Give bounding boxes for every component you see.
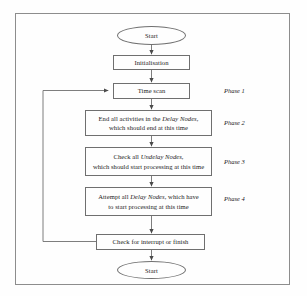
node-start-top[interactable]: Start [117,26,186,45]
node-initialisation-label: Initialisation [132,58,170,67]
phase-label-1: Phase 1 [224,87,245,94]
phase4-line1-post: , which have [165,193,199,200]
phase2-line1-post: , [197,115,199,122]
node-phase2-box[interactable]: End all activities in the Delay Nodes, w… [85,110,212,136]
node-phase2-box-text: End all activities in the Delay Nodes, w… [97,114,201,133]
node-time-scan[interactable]: Time scan [113,83,190,99]
node-start-bottom[interactable]: Start [117,261,186,279]
phase2-line1-pre: End all activities in the [99,115,163,122]
phase4-line1-em: Delay Nodes [130,193,164,200]
flowchart-figure: Start Initialisation Time scan End all a… [0,0,307,296]
phase3-line1-post: , [182,153,184,160]
phase4-line2: to start processing at this time [108,203,189,210]
node-phase4-box[interactable]: Attempt all Delay Nodes, which have to s… [85,187,212,216]
node-phase3-box-text: Check all Undelay Nodes, which should st… [91,152,206,171]
node-check-interrupt-label: Check for interrupt or finish [111,237,191,246]
node-check-interrupt[interactable]: Check for interrupt or finish [96,234,205,250]
phase3-line2: which should start processing at this ti… [93,163,204,170]
node-phase4-box-text: Attempt all Delay Nodes, which have to s… [96,192,201,211]
phase3-line1-pre: Check all [113,153,140,160]
node-phase3-box[interactable]: Check all Undelay Nodes, which should st… [85,147,212,176]
node-start-top-label: Start [143,32,160,39]
phase-label-3: Phase 3 [224,158,245,165]
phase4-line1-pre: Attempt all [98,193,130,200]
phase3-line1-em: Undelay Nodes [141,153,182,160]
phase-label-4: Phase 4 [224,195,245,202]
node-start-bottom-label: Start [143,267,160,274]
phase2-line2: which should end at this time [109,124,188,131]
node-time-scan-label: Time scan [136,86,168,95]
node-initialisation[interactable]: Initialisation [113,55,190,70]
phase-label-2: Phase 2 [224,119,245,126]
phase2-line1-em: Delay Nodes [162,115,196,122]
